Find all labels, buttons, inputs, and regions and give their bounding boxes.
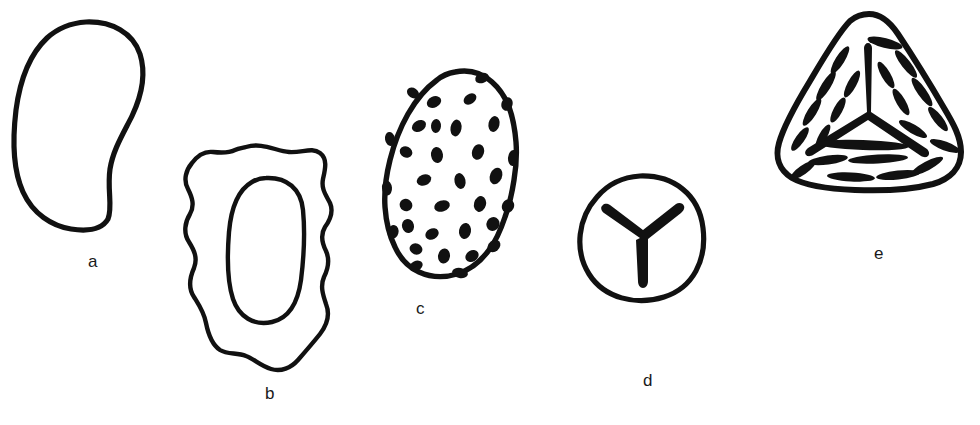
specimen-label-e: e (874, 245, 883, 262)
specimen-label-d: d (643, 372, 652, 389)
specimen-label-a: a (88, 253, 97, 270)
specimen-label-c: c (416, 300, 425, 317)
figure-plate: a b c d e (0, 0, 980, 425)
specimen-label-b: b (265, 385, 274, 402)
figure-drawing-canvas (0, 0, 980, 425)
